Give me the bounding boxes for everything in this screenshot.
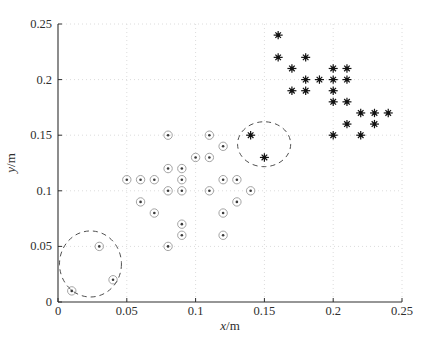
scatter-point-circle-dot (136, 175, 144, 183)
scatter-point-star (274, 31, 283, 39)
circle-marker-dot (139, 201, 142, 204)
circle-marker-dot (112, 278, 115, 281)
scatter-point-star (287, 87, 296, 95)
star-core (373, 122, 377, 126)
circle-marker-dot (167, 190, 170, 193)
scatter-point-star (329, 87, 338, 95)
scatter-point-circle-dot (219, 142, 227, 150)
x-tick-label: 0.25 (391, 304, 413, 318)
gridlines (58, 24, 402, 302)
star-core (345, 67, 349, 71)
y-tick-label: 0.2 (36, 73, 52, 87)
scatter-point-circle-dot (233, 198, 241, 206)
scatter-point-circle-dot (178, 175, 186, 183)
circle-marker-dot (167, 134, 170, 137)
x-tick-label: 0.1 (188, 304, 204, 318)
scatter-point-star (329, 64, 338, 72)
star-core (373, 111, 377, 115)
x-axis-label: x/m (219, 318, 240, 333)
star-core (359, 133, 363, 137)
scatter-point-star (329, 75, 338, 83)
scatter-point-circle-dot (205, 153, 213, 161)
scatter-point-star (301, 53, 310, 61)
scatter-point-star (301, 75, 310, 83)
star-core (345, 78, 349, 82)
circle-marker-dot (167, 167, 170, 170)
y-tick-label: 0.1 (36, 184, 52, 198)
scatter-point-circle-dot (164, 131, 172, 139)
star-core (386, 111, 390, 115)
y-tick-label: 0 (46, 295, 52, 309)
x-tick-label: 0.2 (325, 304, 341, 318)
scatter-point-star (260, 153, 269, 161)
star-core (290, 89, 294, 93)
circle-marker-dot (181, 167, 184, 170)
scatter-point-star (329, 98, 338, 106)
scatter-point-star (274, 53, 283, 61)
y-tick-label: 0.05 (30, 239, 52, 253)
star-core (276, 55, 280, 59)
star-core (304, 55, 308, 59)
circle-marker-dot (208, 156, 211, 159)
scatter-point-star (301, 87, 310, 95)
scatter-point-star (246, 131, 255, 139)
circle-marker-dot (222, 234, 225, 237)
scatter-figure: 00.050.10.150.20.2500.050.10.150.20.25 x… (0, 0, 426, 342)
star-core (276, 33, 280, 37)
scatter-plot-canvas: 00.050.10.150.20.2500.050.10.150.20.25 x… (0, 0, 426, 342)
star-core (331, 133, 335, 137)
circle-marker-dot (181, 178, 184, 181)
scatter-point-circle-dot (164, 242, 172, 250)
circle-marker-dot (153, 178, 156, 181)
scatter-point-star (315, 75, 324, 83)
scatter-point-circle-dot (246, 187, 254, 195)
scatter-point-star (342, 120, 351, 128)
plot-border (58, 24, 402, 302)
star-core (331, 89, 335, 93)
star-core (304, 89, 308, 93)
star-core (331, 78, 335, 82)
scatter-point-circle-dot (219, 231, 227, 239)
circle-marker-dot (222, 212, 225, 215)
circle-marker-dot (208, 134, 211, 137)
circle-marker-dot (181, 223, 184, 226)
scatter-point-star (370, 120, 379, 128)
scatter-point-circle-dot (178, 220, 186, 228)
scatter-point-star (342, 75, 351, 83)
cluster-annotations (60, 122, 291, 297)
scatter-point-circle-dot (136, 198, 144, 206)
circle-marker-dot (98, 245, 101, 248)
scatter-point-star (356, 131, 365, 139)
star-core (345, 100, 349, 104)
circle-marker-dot (181, 234, 184, 237)
circle-marker-dot (194, 156, 197, 159)
tick-labels: 00.050.10.150.20.2500.050.10.150.20.25 (30, 17, 413, 318)
circle-marker-dot (222, 145, 225, 148)
y-axis-label: y/m (3, 153, 18, 175)
circle-marker-dot (222, 178, 225, 181)
y-tick-label: 0.25 (30, 17, 52, 31)
star-core (249, 133, 253, 137)
star-core (345, 122, 349, 126)
circle-marker-dot (249, 190, 252, 193)
scatter-point-circle-dot (219, 209, 227, 217)
scatter-point-star (370, 109, 379, 117)
star-core (290, 67, 294, 71)
scatter-point-circle-dot (233, 175, 241, 183)
circle-marker-dot (236, 178, 239, 181)
x-tick-label: 0.15 (253, 304, 275, 318)
scatter-point-star (287, 64, 296, 72)
scatter-point-circle-dot (219, 175, 227, 183)
star-series (246, 31, 393, 162)
scatter-point-star (342, 98, 351, 106)
scatter-point-star (342, 64, 351, 72)
scatter-point-circle-dot (178, 164, 186, 172)
circle-marker-dot (139, 178, 142, 181)
circle-dot-series (68, 131, 255, 295)
scatter-point-star (384, 109, 393, 117)
scatter-point-circle-dot (178, 231, 186, 239)
circle-marker-dot (208, 190, 211, 193)
circle-marker-dot (126, 178, 129, 181)
star-core (304, 78, 308, 82)
circle-marker-dot (70, 290, 73, 293)
